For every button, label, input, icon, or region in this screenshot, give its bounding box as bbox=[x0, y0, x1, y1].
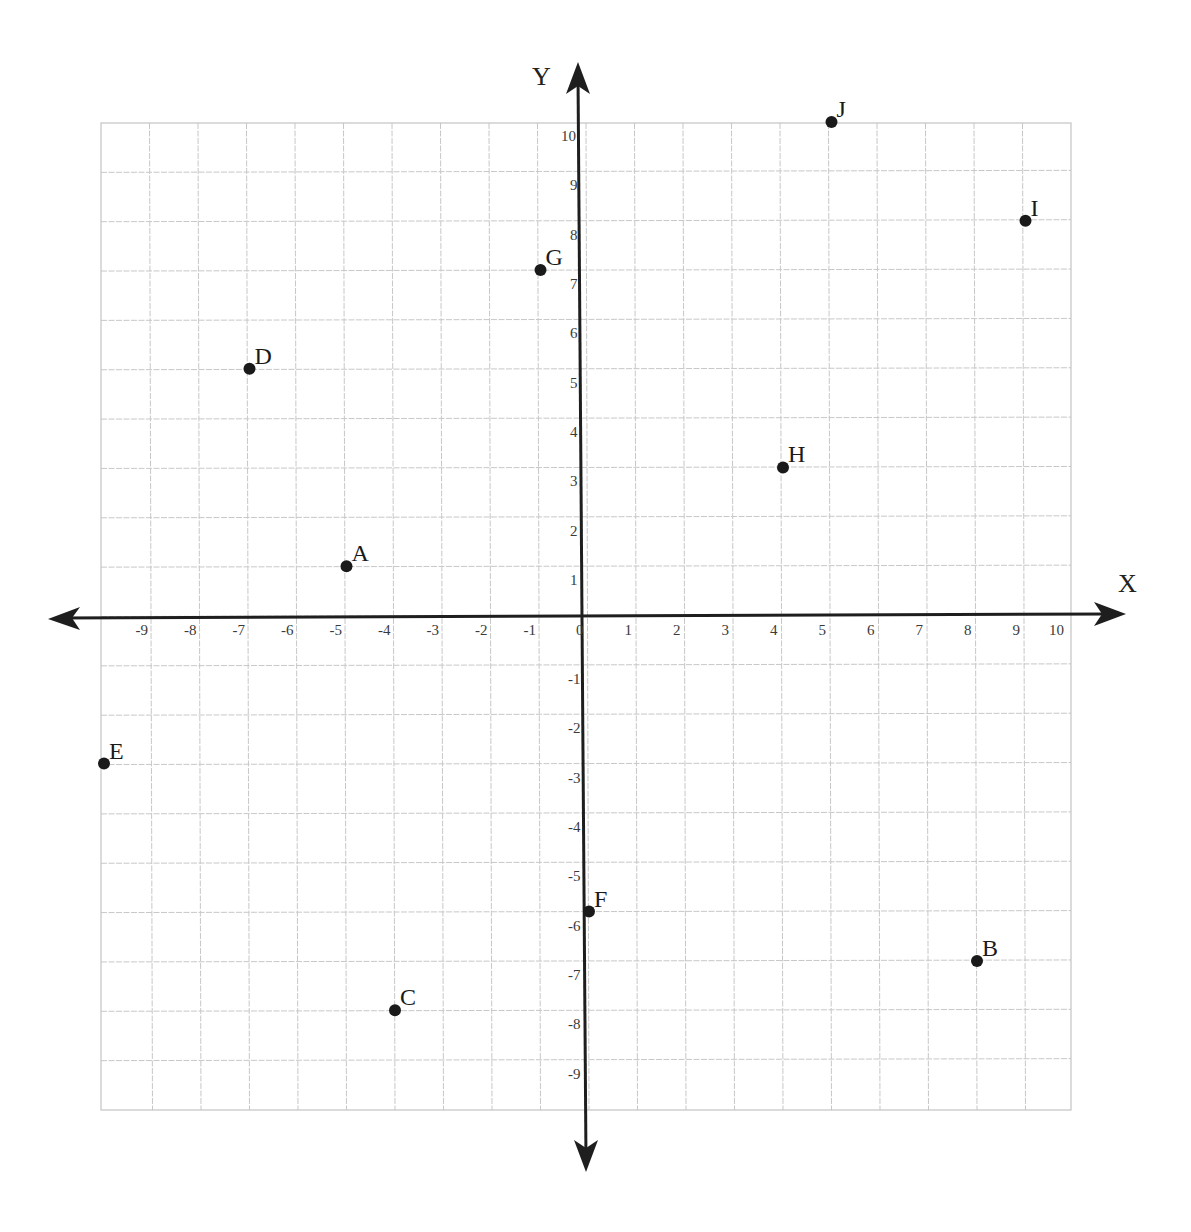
y-axis-title: Y bbox=[532, 62, 551, 91]
grid-line-horizontal bbox=[101, 713, 1071, 715]
y-tick-label: 6 bbox=[570, 325, 578, 341]
grid-line-horizontal bbox=[101, 318, 1071, 320]
point-label: G bbox=[546, 244, 563, 270]
x-tick-label: 5 bbox=[819, 622, 827, 638]
grid-line-vertical bbox=[1023, 123, 1026, 1110]
y-tick-label: -5 bbox=[568, 868, 581, 884]
x-tick-label: 7 bbox=[916, 622, 924, 638]
grid-line-horizontal bbox=[101, 763, 1071, 765]
x-tick-label: -2 bbox=[475, 622, 488, 638]
grid-line-horizontal bbox=[101, 812, 1071, 814]
x-axis-title: X bbox=[1118, 569, 1137, 598]
grid-line-horizontal bbox=[101, 664, 1071, 666]
x-tick-label: -9 bbox=[136, 622, 149, 638]
x-tick-label: 8 bbox=[964, 622, 972, 638]
grid-line-vertical bbox=[926, 123, 929, 1110]
data-point-c: C bbox=[389, 984, 416, 1016]
x-tick-label: 1 bbox=[625, 622, 633, 638]
axes: X Y bbox=[48, 62, 1137, 1172]
x-tick-label: 2 bbox=[673, 622, 681, 638]
y-tick-label: 5 bbox=[570, 375, 578, 391]
x-tick-label: 9 bbox=[1013, 622, 1021, 638]
x-tick-label: 10 bbox=[1049, 622, 1064, 638]
grid-line-horizontal bbox=[101, 466, 1071, 468]
x-tick-label: 4 bbox=[770, 622, 778, 638]
x-tick-label: -8 bbox=[184, 622, 197, 638]
data-point-g: G bbox=[535, 244, 563, 276]
y-tick-label: 10 bbox=[561, 128, 576, 144]
x-tick-label: -3 bbox=[427, 622, 440, 638]
x-tick-label: 6 bbox=[867, 622, 875, 638]
y-tick-label: 2 bbox=[570, 523, 578, 539]
point-label: C bbox=[400, 984, 416, 1010]
y-tick-label: -1 bbox=[568, 671, 581, 687]
y-tick-label: 9 bbox=[570, 177, 578, 193]
point-label: E bbox=[109, 738, 124, 764]
x-axis bbox=[60, 614, 1112, 618]
grid-line-horizontal bbox=[101, 417, 1071, 419]
data-point-d: D bbox=[244, 343, 272, 375]
point-label: A bbox=[352, 540, 370, 566]
grid-line-vertical bbox=[877, 123, 880, 1110]
x-tick-label: -1 bbox=[524, 622, 537, 638]
point-label: D bbox=[255, 343, 272, 369]
x-tick-label: -6 bbox=[281, 622, 294, 638]
x-tick-label: -5 bbox=[330, 622, 343, 638]
grid-line-horizontal bbox=[101, 565, 1071, 567]
y-tick-label: -4 bbox=[568, 819, 581, 835]
point-label: J bbox=[837, 96, 846, 122]
y-tick-label: 1 bbox=[570, 572, 578, 588]
y-tick-label: -7 bbox=[568, 967, 581, 983]
y-tick-label: -9 bbox=[568, 1066, 581, 1082]
x-tick-label: 3 bbox=[722, 622, 730, 638]
y-tick-label: -3 bbox=[568, 770, 581, 786]
coordinate-plane: X Y -9-8-7-6-5-4-3-2-1012345678910109876… bbox=[0, 0, 1191, 1232]
point-label: F bbox=[594, 886, 607, 912]
grid-line-horizontal bbox=[101, 516, 1071, 518]
point-label: I bbox=[1031, 195, 1039, 221]
point-label: B bbox=[982, 935, 998, 961]
x-tick-label: 0 bbox=[576, 622, 584, 638]
y-tick-label: 4 bbox=[570, 424, 578, 440]
y-tick-label: -8 bbox=[568, 1016, 581, 1032]
y-tick-label: -2 bbox=[568, 720, 581, 736]
point-label: H bbox=[788, 441, 805, 467]
data-point-b: B bbox=[971, 935, 998, 967]
x-tick-label: -4 bbox=[378, 622, 391, 638]
x-tick-label: -7 bbox=[233, 622, 246, 638]
grid-line-horizontal bbox=[101, 861, 1071, 863]
data-point-f: F bbox=[583, 886, 607, 918]
y-tick-label: 3 bbox=[570, 473, 578, 489]
y-tick-label: 8 bbox=[570, 227, 578, 243]
y-tick-label: -6 bbox=[568, 918, 581, 934]
y-tick-label: 7 bbox=[570, 276, 578, 292]
